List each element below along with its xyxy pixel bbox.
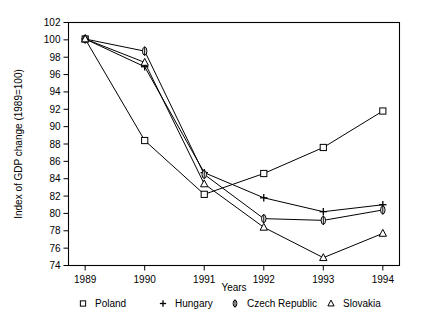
x-tick-label: 1993 [312, 274, 335, 285]
marker-square [261, 170, 267, 176]
marker-square [380, 108, 386, 114]
marker-square [80, 301, 85, 306]
series-slovakia [81, 35, 386, 261]
marker-triangle [260, 223, 267, 230]
marker-ellipse-bar [143, 47, 147, 56]
marker-ellipse-bar [381, 205, 385, 214]
marker-ellipse-bar [262, 214, 266, 223]
legend-label-poland: Poland [95, 298, 126, 309]
x-tick-label: 1992 [253, 274, 276, 285]
y-axis-ticks [64, 23, 69, 266]
marker-plus [260, 194, 267, 201]
x-tick-label: 1991 [193, 274, 216, 285]
series-line [85, 39, 383, 194]
y-tick-label: 76 [49, 243, 61, 254]
plot-frame [69, 23, 400, 266]
marker-ellipse-bar [233, 300, 237, 308]
gdp-index-chart-figure: 74767880828486889092949698100102 1989199… [0, 0, 428, 322]
x-tick-label: 1989 [74, 274, 97, 285]
y-tick-label: 80 [49, 208, 61, 219]
x-tick-label: 1994 [372, 274, 395, 285]
y-tick-label: 88 [49, 139, 61, 150]
series-hungary [81, 35, 386, 215]
series-line [85, 39, 383, 258]
series-line [85, 39, 383, 220]
y-tick-label: 84 [49, 173, 61, 184]
marker-square [201, 191, 207, 197]
legend-label-czech-republic: Czech Republic [247, 298, 317, 309]
legend-label-slovakia: Slovakia [343, 298, 381, 309]
y-tick-label: 78 [49, 225, 61, 236]
marker-triangle [328, 300, 334, 306]
data-series-group [81, 34, 386, 260]
y-tick-label: 92 [49, 104, 61, 115]
y-axis-title: Index of GDP change (1989=100) [13, 69, 24, 219]
y-tick-label: 100 [44, 34, 61, 45]
marker-ellipse-bar [202, 170, 206, 179]
y-tick-label: 82 [49, 191, 61, 202]
marker-plus [160, 300, 166, 306]
x-tick-label: 1990 [134, 274, 157, 285]
x-axis-ticks [85, 266, 383, 271]
marker-ellipse-bar [321, 216, 325, 225]
y-tick-label: 74 [49, 260, 61, 271]
y-axis-tick-labels: 74767880828486889092949698100102 [44, 17, 61, 271]
y-tick-label: 94 [49, 86, 61, 97]
marker-triangle [201, 180, 208, 187]
y-tick-label: 102 [44, 17, 61, 28]
marker-plus [320, 208, 327, 215]
chart-canvas: 74767880828486889092949698100102 1989199… [0, 0, 428, 322]
marker-square [142, 137, 148, 143]
y-tick-label: 90 [49, 121, 61, 132]
y-tick-label: 86 [49, 156, 61, 167]
x-axis-title: Years [221, 282, 246, 293]
y-tick-label: 98 [49, 52, 61, 63]
legend-label-hungary: Hungary [175, 298, 213, 309]
series-czech-republic [83, 34, 385, 225]
marker-triangle [379, 229, 386, 236]
y-tick-label: 96 [49, 69, 61, 80]
chart-legend: PolandHungaryCzech RepublicSlovakia [80, 298, 381, 309]
series-poland [82, 36, 386, 198]
marker-square [320, 144, 326, 150]
series-line [85, 39, 383, 212]
